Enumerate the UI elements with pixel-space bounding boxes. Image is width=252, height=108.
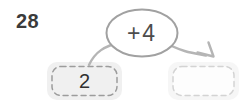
operation-label: +4 bbox=[107, 10, 177, 56]
input-value: 2 bbox=[47, 62, 122, 100]
worksheet-exercise: 28 +4 2 bbox=[0, 0, 252, 108]
problem-number: 28 bbox=[16, 9, 39, 33]
answer-value[interactable] bbox=[168, 62, 239, 100]
